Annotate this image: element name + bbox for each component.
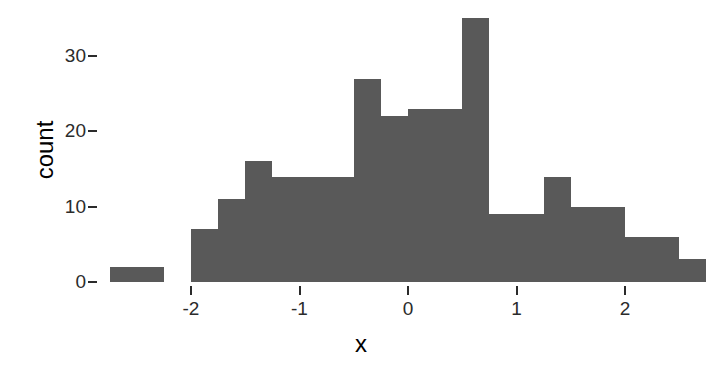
x-axis-tick-label: 1 bbox=[492, 298, 542, 320]
y-axis-tick-mark bbox=[88, 55, 97, 57]
x-axis-tick-label: 0 bbox=[383, 298, 433, 320]
x-axis-tick-mark bbox=[299, 286, 301, 295]
histogram-bar bbox=[571, 207, 598, 282]
y-axis-tick-mark bbox=[88, 206, 97, 208]
y-axis-tick-mark bbox=[88, 281, 97, 283]
x-axis-tick-label: 2 bbox=[600, 298, 650, 320]
histogram-bar bbox=[517, 214, 544, 282]
x-axis-title: x bbox=[0, 330, 722, 358]
histogram-bar bbox=[218, 199, 245, 282]
histogram-chart: 0102030 count x -2-1012 bbox=[0, 0, 722, 374]
x-axis-tick-label: -1 bbox=[275, 298, 325, 320]
histogram-bar bbox=[137, 267, 164, 282]
histogram-bar bbox=[598, 207, 625, 282]
histogram-bar bbox=[327, 177, 354, 282]
histogram-bar bbox=[489, 214, 516, 282]
x-axis-tick-label: -2 bbox=[166, 298, 216, 320]
histogram-bar bbox=[381, 116, 408, 282]
histogram-bar bbox=[462, 18, 489, 282]
y-axis-title: count bbox=[30, 0, 60, 300]
histogram-bar bbox=[679, 259, 706, 282]
histogram-bar bbox=[354, 79, 381, 282]
histogram-bar bbox=[272, 177, 299, 282]
histogram-bar bbox=[625, 237, 652, 282]
histogram-bar bbox=[110, 267, 137, 282]
x-axis-tick-mark bbox=[407, 286, 409, 295]
y-axis-tick-mark bbox=[88, 130, 97, 132]
histogram-bar bbox=[652, 237, 679, 282]
x-axis-tick-mark bbox=[190, 286, 192, 295]
histogram-bar bbox=[435, 109, 462, 282]
histogram-bar bbox=[191, 229, 218, 282]
histogram-bar bbox=[544, 177, 571, 282]
histogram-bar bbox=[245, 161, 272, 282]
histogram-bar bbox=[408, 109, 435, 282]
x-axis-tick-mark bbox=[624, 286, 626, 295]
histogram-bar bbox=[300, 177, 327, 282]
x-axis-tick-mark bbox=[516, 286, 518, 295]
